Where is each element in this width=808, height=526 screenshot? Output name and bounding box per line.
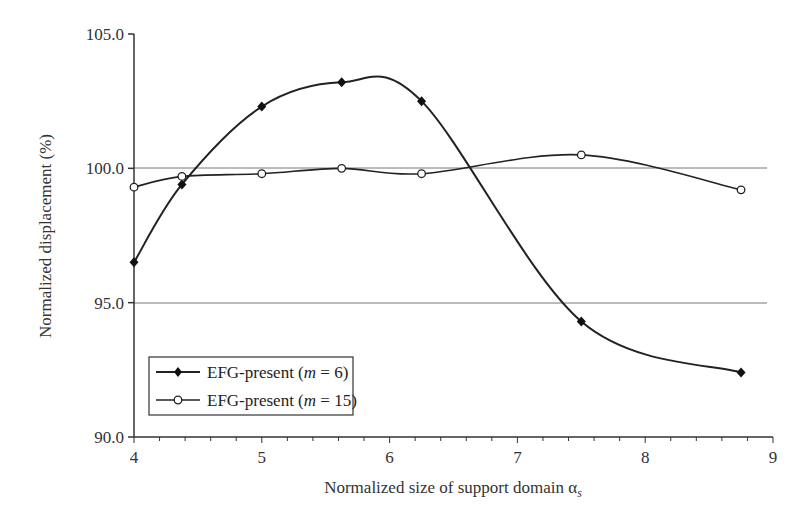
legend-label-m6: EFG-present (m = 6) xyxy=(207,363,348,382)
legend: EFG-present (m = 6) EFG-present (m = 15) xyxy=(149,357,357,415)
filled-diamond-marker xyxy=(257,102,266,112)
open-circle-marker xyxy=(178,173,186,181)
series-group xyxy=(130,76,746,377)
y-axis-title: Normalized displacement (%) xyxy=(36,134,55,338)
open-circle-marker xyxy=(130,183,138,191)
x-tick-label: 7 xyxy=(513,448,522,467)
open-circle-marker xyxy=(578,151,586,159)
x-tick-label: 5 xyxy=(258,448,267,467)
filled-diamond-marker xyxy=(337,77,346,87)
y-tick-labels: 90.095.0100.0105.0 xyxy=(86,25,124,447)
chart-canvas: 90.095.0100.0105.0 456789 Normalized dis… xyxy=(0,0,808,526)
legend-open-circle-icon xyxy=(174,396,182,404)
x-tick-labels: 456789 xyxy=(130,448,778,467)
legend-label-m15: EFG-present (m = 15) xyxy=(207,391,357,410)
x-axis-title: Normalized size of support domain αs xyxy=(324,478,582,500)
open-circle-marker xyxy=(338,165,346,173)
open-circle-marker xyxy=(737,186,745,194)
x-tick-label: 9 xyxy=(769,448,778,467)
x-ticks xyxy=(134,437,773,443)
filled-diamond-marker xyxy=(737,368,746,378)
x-axis-title-subscript: s xyxy=(577,486,582,500)
y-tick-label: 100.0 xyxy=(86,159,124,178)
x-tick-label: 8 xyxy=(641,448,650,467)
x-tick-label: 4 xyxy=(130,448,139,467)
y-ticks xyxy=(128,34,134,437)
y-tick-label: 95.0 xyxy=(94,294,124,313)
open-circle-marker xyxy=(258,170,266,178)
open-circle-marker xyxy=(418,170,426,178)
y-tick-label: 105.0 xyxy=(86,25,124,44)
y-tick-label: 90.0 xyxy=(94,428,124,447)
x-tick-label: 6 xyxy=(385,448,394,467)
series-m15 xyxy=(130,151,745,194)
series-m6 xyxy=(130,76,746,377)
